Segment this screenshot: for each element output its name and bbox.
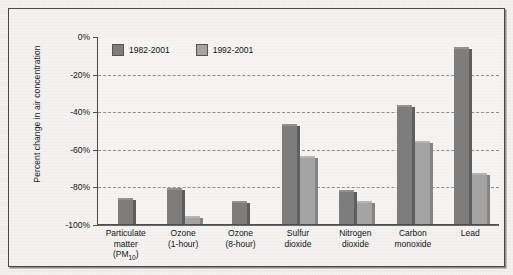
x-axis-label-line: Lead [442, 228, 499, 239]
x-axis-label-line: Sulfur [269, 228, 326, 239]
bar-face [167, 190, 182, 224]
bar-face [454, 49, 469, 224]
figure-frame: Percent change in air concentration -100… [8, 8, 505, 267]
bar-side [430, 143, 433, 224]
bar-side [315, 158, 318, 224]
bar [185, 218, 200, 224]
bar-top [282, 124, 297, 126]
bar-face [118, 200, 133, 224]
bar-face [185, 218, 200, 224]
bar [300, 158, 315, 224]
gridline-100 [98, 225, 499, 226]
bar [454, 49, 469, 224]
x-axis-label: Ozone(8-hour) [212, 228, 269, 263]
bar [232, 203, 247, 224]
bar-group [270, 37, 327, 224]
bar [415, 143, 430, 224]
bar-group [327, 37, 384, 224]
x-axis-label-line: matter [97, 239, 154, 250]
bar-top [232, 201, 247, 203]
bar-top [185, 216, 200, 218]
y-axis-label-80: -80% [70, 182, 90, 192]
x-axis-label-line: dioxide [269, 239, 326, 250]
x-axis-label-line: (8-hour) [212, 239, 269, 250]
y-axis-tick-100 [93, 225, 98, 226]
x-axis-label-line: dioxide [327, 239, 384, 250]
bar-top [454, 47, 469, 49]
y-axis-label-40: -40% [70, 107, 90, 117]
bar-group [213, 37, 270, 224]
bar-top [167, 188, 182, 190]
plot-area: -100%-80%-60%-40%-20%0% 1982-20011992-20… [97, 37, 499, 225]
bar [357, 203, 372, 224]
x-axis-label: Ozone(1-hour) [154, 228, 211, 263]
x-axis-label: Lead [442, 228, 499, 263]
bar-groups [98, 37, 499, 224]
bar-side [247, 203, 250, 224]
bar-top [357, 201, 372, 203]
bar-face [415, 143, 430, 224]
bar-face [397, 107, 412, 224]
bar-group [384, 37, 441, 224]
bar-group [442, 37, 499, 224]
bar-face [357, 203, 372, 224]
x-axis-label: Nitrogendioxide [327, 228, 384, 263]
bar-side [133, 200, 136, 224]
bar-top [397, 105, 412, 107]
bar-top [300, 156, 315, 158]
bar-top [339, 190, 354, 192]
y-axis-label-60: -60% [70, 145, 90, 155]
bar [118, 200, 133, 224]
x-axis-label-line: monoxide [384, 239, 441, 250]
bar [339, 192, 354, 224]
x-axis-tick-labels: Particulatematter(PM10)Ozone(1-hour)Ozon… [97, 228, 499, 263]
bar-top [472, 173, 487, 175]
bar-group [155, 37, 212, 224]
bar [397, 107, 412, 224]
x-axis-label: Particulatematter(PM10) [97, 228, 154, 263]
bar-face [232, 203, 247, 224]
bar-side [200, 218, 203, 224]
y-axis-title: Percent change in air concentration [32, 24, 42, 204]
bar-side [487, 175, 490, 224]
x-axis-label: Sulfurdioxide [269, 228, 326, 263]
bar [472, 175, 487, 224]
figure-page: Percent change in air concentration -100… [0, 0, 513, 275]
bar-side [372, 203, 375, 224]
y-axis-label-0: 0% [78, 32, 90, 42]
y-axis-label-20: -20% [70, 70, 90, 80]
x-axis-label-line: (1-hour) [154, 239, 211, 250]
bar [282, 126, 297, 224]
bar-face [339, 192, 354, 224]
x-axis-label-line: Particulate [97, 228, 154, 239]
bar-top [415, 141, 430, 143]
x-axis-label-line: Ozone [212, 228, 269, 239]
x-axis-label-line: Ozone [154, 228, 211, 239]
bar-top [118, 198, 133, 200]
x-axis-label-line: (PM10) [97, 249, 154, 263]
x-axis-label-line: Nitrogen [327, 228, 384, 239]
x-axis-label-line: Carbon [384, 228, 441, 239]
bar-group [98, 37, 155, 224]
bar-face [300, 158, 315, 224]
x-axis-label: Carbonmonoxide [384, 228, 441, 263]
y-axis-label-100: -100% [65, 220, 90, 230]
bar [167, 190, 182, 224]
bar-face [282, 126, 297, 224]
bar-face [472, 175, 487, 224]
